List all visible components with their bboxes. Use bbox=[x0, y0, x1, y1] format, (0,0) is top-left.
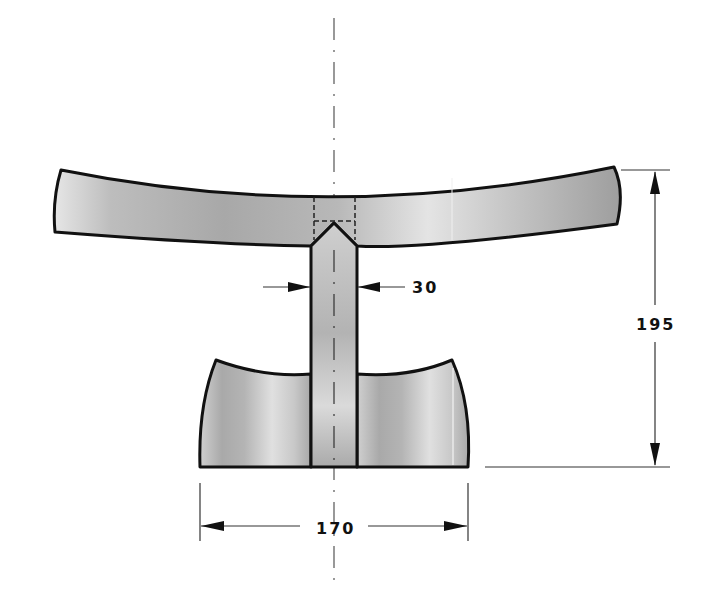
base-width-label: 170 bbox=[316, 519, 355, 538]
overall-height-label: 195 bbox=[636, 315, 675, 334]
post-width-label: 30 bbox=[412, 278, 438, 297]
center-post bbox=[311, 223, 357, 467]
technical-drawing: 30 195 170 bbox=[0, 0, 710, 610]
